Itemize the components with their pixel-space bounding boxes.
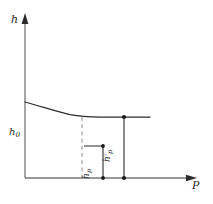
x-axis-label: P (192, 180, 199, 191)
outer-segment-bottom-marker (122, 176, 126, 180)
outer-label-base: h (102, 156, 112, 162)
y-axis-label: h (11, 14, 18, 25)
x-axis (25, 175, 197, 181)
y-axis-arrowhead (22, 13, 29, 24)
outer-label-prime: ' (103, 154, 112, 156)
inner-label-base: h (81, 173, 91, 179)
characteristic-curve (25, 102, 150, 117)
y-axis (22, 13, 29, 178)
y-axis-tick-label: h0 (9, 127, 20, 138)
outer-segment-label: h'p (103, 150, 113, 162)
diagram-canvas (0, 0, 213, 204)
outer-label-subscript: p (106, 150, 114, 154)
inner-segment-label: hp (82, 169, 92, 179)
y-tick-subscript: 0 (15, 130, 20, 139)
inner-label-subscript: p (85, 169, 93, 173)
inner-segment-bottom-marker (101, 176, 105, 180)
outer-segment-top-marker (122, 115, 126, 119)
inner-segment-top-marker (101, 144, 105, 148)
pressure-head-diagram: h P h0 hp h'p (0, 0, 213, 204)
